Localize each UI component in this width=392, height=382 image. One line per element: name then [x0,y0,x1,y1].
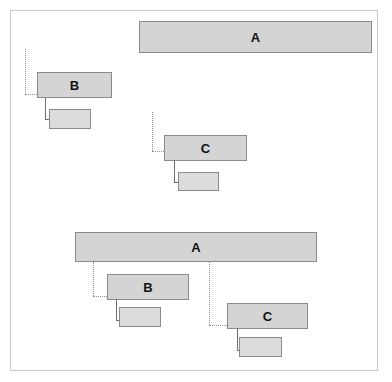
connector-dotted-upper-c-vertical [152,112,153,151]
block-lower-a[interactable]: A [75,232,317,262]
block-upper-b[interactable]: B [37,72,112,98]
block-upper-c[interactable]: C [164,135,247,161]
subblock-lower-b[interactable] [119,307,161,327]
connector-dotted-lower-c-horizontal [209,325,227,326]
connector-solid-upper-b-vertical [45,98,46,119]
connector-dotted-lower-b-horizontal [93,296,107,297]
subblock-lower-c[interactable] [239,337,282,357]
subblock-upper-c[interactable] [178,172,219,191]
connector-solid-upper-c-vertical [174,161,175,182]
connector-dotted-lower-c-vertical [209,262,210,325]
block-label-upper-a: A [251,31,260,44]
block-upper-a[interactable]: A [139,21,372,53]
connector-solid-lower-b-vertical [116,300,117,320]
diagram-frame: A B C A [10,10,378,371]
block-lower-b[interactable]: B [107,274,189,300]
diagram-canvas: A B C A [0,0,392,382]
connector-solid-lower-c-vertical [237,329,238,350]
block-label-lower-b: B [143,281,152,294]
block-label-upper-c: C [201,142,210,155]
block-label-lower-a: A [191,241,200,254]
subblock-upper-b[interactable] [49,109,91,129]
connector-dotted-upper-b-vertical [25,49,26,94]
block-lower-c[interactable]: C [227,303,308,329]
block-label-upper-b: B [70,79,79,92]
block-label-lower-c: C [263,310,272,323]
connector-dotted-lower-b-vertical [93,262,94,296]
